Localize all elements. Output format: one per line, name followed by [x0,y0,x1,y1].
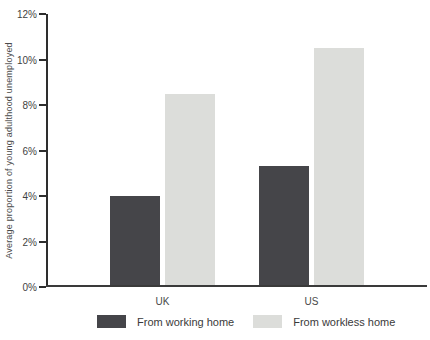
legend-label-working: From working home [137,316,234,328]
y-tick-label-2%: 2% [23,236,37,247]
y-tick-mark-4% [39,195,46,197]
legend-swatch-workless [253,315,282,328]
legend-item-working: From working home [97,315,234,328]
y-tick-label-8%: 8% [23,100,37,111]
y-tick-label-6%: 6% [23,145,37,156]
plot-area: 0%2%4%6%8%10%12% [48,14,427,285]
y-tick-mark-6% [39,150,46,152]
legend-item-workless: From workless home [253,315,395,328]
legend-label-workless: From workless home [293,316,395,328]
legend-swatch-working [97,315,126,328]
bar-uk-working [110,196,160,285]
bar-uk-workless [165,94,215,285]
y-axis-title: Average proportion of young adulthood un… [4,14,14,287]
y-tick-mark-12% [39,13,46,15]
y-tick-label-4%: 4% [23,191,37,202]
bar-us-working [259,166,309,285]
y-tick-label-12%: 12% [17,9,37,20]
x-tick-label-uk: UK [156,296,170,307]
y-tick-mark-10% [39,59,46,61]
legend: From working homeFrom workless home [97,315,395,328]
y-tick-label-0%: 0% [23,282,37,293]
y-tick-mark-2% [39,241,46,243]
y-tick-mark-0% [39,286,46,288]
bar-chart: Average proportion of young adulthood un… [0,0,430,340]
y-tick-mark-8% [39,104,46,106]
x-axis-line [46,285,427,287]
bar-us-workless [314,48,364,285]
x-tick-label-us: US [305,296,319,307]
y-tick-label-10%: 10% [17,54,37,65]
